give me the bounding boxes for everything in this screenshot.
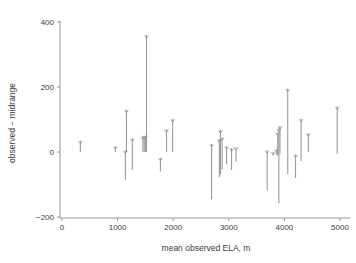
- range-segment: [113, 146, 117, 152]
- x-tick-label: 1000: [109, 223, 127, 232]
- range-segment: [306, 133, 310, 152]
- y-tick-label: −200: [36, 213, 55, 222]
- x-tick-label: 0: [60, 223, 65, 232]
- x-axis: 010002000300040005000: [60, 218, 350, 232]
- x-tick-label: 3000: [220, 223, 238, 232]
- range-segment: [286, 89, 290, 174]
- range-segment: [271, 152, 275, 155]
- data-series-range-segments: [78, 35, 339, 203]
- x-tick-label: 5000: [331, 223, 349, 232]
- range-segment: [78, 141, 82, 152]
- range-segment: [230, 148, 234, 170]
- range-segment: [294, 155, 298, 178]
- y-axis-title: observed − midrange: [7, 83, 17, 163]
- y-tick-label: 200: [41, 83, 55, 92]
- x-tick-label: 2000: [164, 223, 182, 232]
- range-segment: [299, 119, 303, 161]
- y-axis: −2000200400: [36, 18, 60, 222]
- range-segment: [225, 146, 229, 164]
- range-segment: [125, 110, 129, 152]
- range-segment: [234, 147, 238, 162]
- range-segment: [123, 150, 127, 179]
- range-segment: [210, 144, 214, 199]
- chart-figure: −2000200400 010002000300040005000 mean o…: [0, 0, 356, 263]
- x-tick-label: 4000: [276, 223, 294, 232]
- range-segment: [130, 138, 134, 170]
- range-segment: [165, 129, 169, 152]
- range-segment: [265, 150, 269, 190]
- range-segment: [171, 119, 175, 152]
- range-segment: [145, 35, 149, 152]
- y-tick-label: 0: [50, 148, 55, 157]
- x-axis-title: mean observed ELA, m: [162, 243, 251, 253]
- range-segment: [335, 107, 339, 154]
- y-tick-label: 400: [41, 18, 55, 27]
- range-segment: [159, 158, 163, 172]
- scatter-range-plot: −2000200400 010002000300040005000 mean o…: [0, 0, 356, 263]
